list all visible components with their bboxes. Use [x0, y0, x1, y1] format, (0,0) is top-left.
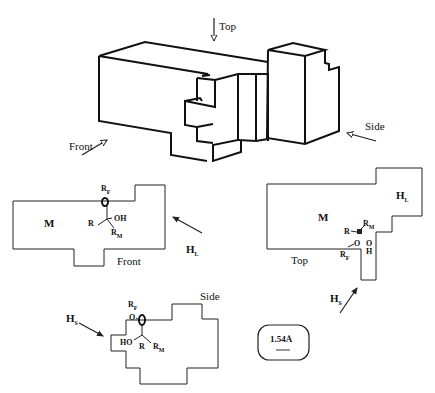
rf-label-side: RF — [128, 300, 138, 311]
side-view-outline — [79, 304, 218, 384]
r-label-front: R — [88, 219, 94, 228]
front-region-m: M — [44, 217, 55, 229]
hs-arrow-side — [79, 323, 103, 336]
top-region-m: M — [318, 211, 329, 223]
hs-label-top: HS — [330, 292, 343, 306]
r-label-top: R — [344, 227, 350, 236]
rf-label-front: RF — [101, 184, 111, 195]
side-view-label: Side — [365, 120, 385, 132]
hs-label-side: HS — [66, 312, 79, 326]
scale-bar-label: 1.54Å — [270, 334, 293, 344]
pharmacophore-diagram: Top Front Side M Front HL RF R OH RM M T… — [0, 0, 435, 393]
hl-label-front: HL — [186, 243, 199, 257]
oh-label-front: OH — [114, 214, 127, 223]
chiral-center-top — [357, 229, 362, 234]
rm-label-front: RM — [111, 228, 123, 239]
hl-arrow-front — [173, 217, 202, 233]
top-view-caption: Top — [291, 254, 308, 266]
side-view-arrow — [347, 133, 376, 141]
o-label-side: O — [129, 313, 135, 322]
front-view-caption: Front — [117, 255, 141, 267]
hs-arrow-top — [340, 288, 357, 313]
oh-h-label-top: H — [366, 247, 373, 256]
block-3d-model — [82, 18, 376, 161]
side-view-caption: Side — [200, 290, 220, 302]
front-view-outline — [13, 185, 202, 266]
rm-label-side: RM — [153, 342, 165, 353]
hl-label-top: HL — [396, 189, 409, 203]
top-view-label: Top — [219, 20, 236, 32]
rf-label-top: RF — [340, 250, 350, 261]
front-view-label: Front — [69, 140, 93, 152]
ho-label-side: HO — [120, 338, 132, 347]
o-label-top: O — [354, 239, 360, 248]
r-label-side: R — [139, 342, 145, 351]
rm-label-top: RM — [363, 219, 375, 230]
